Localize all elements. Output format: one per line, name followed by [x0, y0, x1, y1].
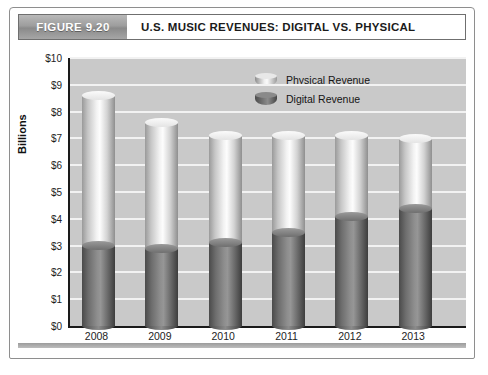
y-tick-label: $5	[28, 187, 62, 198]
bar-segment-digital	[335, 216, 368, 326]
x-tick-label: 2013	[383, 330, 443, 342]
figure-number-badge: FIGURE 9.20	[19, 15, 127, 39]
bar-column	[82, 96, 115, 326]
bar-segment-digital	[399, 208, 432, 326]
y-tick-label: $2	[28, 267, 62, 278]
legend-swatch-digital-icon	[255, 92, 277, 105]
bar-column	[335, 136, 368, 326]
x-tick-label: 2010	[193, 330, 253, 342]
bar-column	[209, 136, 242, 326]
plot-area: Physical Revenue Digital Revenue	[68, 58, 466, 328]
bar-segment-physical	[209, 136, 242, 243]
bar-top-ellipse	[399, 134, 432, 143]
chart-area: Billions $0$1$2$3$4$5$6$7$8$9$10 Physica…	[18, 42, 466, 342]
bar-segment-digital	[82, 246, 115, 326]
figure-frame: FIGURE 9.20 U.S. MUSIC REVENUES: DIGITAL…	[9, 7, 475, 359]
y-tick-label: $4	[28, 213, 62, 224]
y-axis-ticks: $0$1$2$3$4$5$6$7$8$9$10	[28, 42, 62, 342]
gridline	[70, 57, 466, 59]
bar-digital-top-ellipse	[272, 228, 305, 237]
x-tick-label: 2008	[67, 330, 127, 342]
bar-top-ellipse	[145, 118, 178, 127]
bar-segment-digital	[145, 248, 178, 326]
y-axis-label: Billions	[16, 114, 28, 154]
legend-item-digital: Digital Revenue	[255, 89, 370, 108]
gridline	[70, 84, 466, 86]
bar-column	[145, 122, 178, 326]
bar-digital-top-ellipse	[145, 244, 178, 253]
figure-title: U.S. MUSIC REVENUES: DIGITAL VS. PHYSICA…	[127, 15, 465, 39]
figure-header: FIGURE 9.20 U.S. MUSIC REVENUES: DIGITAL…	[18, 14, 466, 40]
bar-segment-physical	[399, 138, 432, 208]
bar-segment-physical	[145, 122, 178, 248]
y-tick-label: $0	[28, 321, 62, 332]
legend-item-physical: Physical Revenue	[255, 70, 370, 89]
y-tick-label: $10	[28, 53, 62, 64]
y-tick-label: $3	[28, 240, 62, 251]
bar-digital-top-ellipse	[399, 204, 432, 213]
legend-label-digital: Digital Revenue	[286, 93, 360, 105]
bar-segment-physical	[272, 136, 305, 232]
y-tick-label: $1	[28, 294, 62, 305]
y-tick-label: $6	[28, 160, 62, 171]
bar-segment-digital	[209, 243, 242, 326]
x-tick-label: 2009	[130, 330, 190, 342]
bar-segment-digital	[272, 232, 305, 326]
bar-digital-top-ellipse	[335, 212, 368, 221]
y-tick-label: $7	[28, 133, 62, 144]
figure-footer-rule	[18, 343, 466, 348]
x-axis-ticks: 200820092010201120122013	[68, 328, 466, 342]
bar-top-ellipse	[82, 91, 115, 100]
gridline	[70, 111, 466, 113]
y-tick-label: $8	[28, 106, 62, 117]
bar-segment-physical	[335, 136, 368, 216]
bar-segment-physical	[82, 96, 115, 246]
bar-column	[272, 136, 305, 326]
chart-legend: Physical Revenue Digital Revenue	[255, 70, 370, 108]
x-tick-label: 2012	[320, 330, 380, 342]
bar-column	[399, 138, 432, 326]
x-tick-label: 2011	[257, 330, 317, 342]
y-tick-label: $9	[28, 79, 62, 90]
